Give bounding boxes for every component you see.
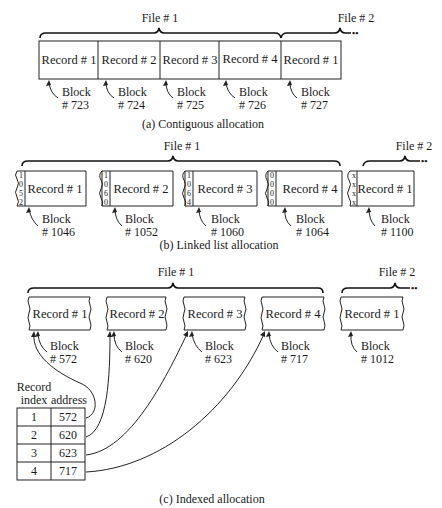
table-cell-address: 623 (59, 446, 77, 460)
pointer-digit: 0 (104, 198, 108, 207)
block-number: # 1012 (361, 352, 394, 366)
record-label: Record # 1 (33, 307, 88, 321)
record-label: Record # 2 (114, 182, 169, 196)
table-cell-index: 1 (31, 410, 37, 424)
pointer-digit: 0 (270, 171, 274, 180)
record-label: Record # 2 (102, 53, 157, 67)
block-word: Block (239, 85, 268, 99)
record-label: Record # 1 (42, 53, 97, 67)
indexed-block: Record # 1 (340, 297, 404, 330)
table-cell-index: 4 (31, 464, 37, 478)
indexed-block: Record # 3 (183, 297, 246, 330)
linked-block: 0 0 0 0 Record # 4 (266, 171, 343, 207)
file1-label: File # 1 (164, 139, 201, 153)
pointer-digit: 0 (270, 198, 274, 207)
record-label: Record # 4 (266, 307, 322, 321)
section-linked-list: File # 1 File # 2 •• 1 0 5 2 Record # 1 … (16, 139, 433, 252)
caption-linked-list: (b) Linked list allocation (160, 238, 279, 252)
indexed-block: Record # 2 (106, 297, 167, 330)
linked-block: 1 0 6 4 Record # 3 (183, 171, 258, 207)
pointer-digit: 6 (187, 189, 191, 198)
pointer-null-mark: x (352, 180, 356, 189)
block-number: # 1100 (381, 225, 414, 239)
table-cell-index: 3 (31, 446, 37, 460)
file2-label: File # 2 (379, 265, 416, 279)
pointer-digit: 0 (104, 180, 108, 189)
pointer-digit: 1 (187, 171, 191, 180)
block-word: Block (125, 339, 154, 353)
file1-label: File # 1 (142, 11, 179, 25)
block-word: Block (50, 339, 79, 353)
pointer-null-mark: x (352, 189, 356, 198)
block-number: # 620 (125, 352, 152, 366)
section-contiguous: File # 1 File # 2 •• Record # 1 Record #… (39, 11, 374, 131)
block-word: Block (118, 85, 147, 99)
record-label: Record # 3 (198, 182, 253, 196)
file2-brace (281, 28, 351, 38)
table-header-address: address (51, 393, 87, 407)
record-label: Record # 3 (163, 53, 218, 67)
block-number: # 724 (118, 98, 145, 112)
block-number: # 1064 (296, 225, 329, 239)
section-indexed: File # 1 File # 2 •• Record # 1 Record #… (17, 265, 418, 506)
block-number: # 723 (62, 98, 89, 112)
continuation-dots: •• (421, 156, 427, 166)
indexed-block: Record # 1 (28, 297, 91, 330)
caption-indexed: (c) Indexed allocation (159, 492, 264, 506)
pointer-digit: 0 (187, 180, 191, 189)
block-word: Block (361, 339, 390, 353)
file2-label: File # 2 (396, 139, 433, 153)
pointer-digit: 1 (19, 171, 23, 180)
pointer-digit: 6 (104, 189, 108, 198)
linked-block: 1 0 5 2 Record # 1 (16, 171, 87, 207)
pointer-digit: 0 (270, 180, 274, 189)
file2-brace (363, 156, 420, 166)
block-word: Block (301, 85, 330, 99)
block-word: Block (296, 212, 325, 226)
block-word: Block (177, 85, 206, 99)
pointer-digit: 4 (187, 198, 191, 207)
continuation-dots: •• (352, 28, 358, 38)
block-number: # 1052 (125, 225, 158, 239)
record-label: Record # 4 (223, 52, 279, 66)
block-number: # 623 (205, 352, 232, 366)
block-word: Block (125, 212, 154, 226)
pointer-digit: 0 (270, 189, 274, 198)
file2-brace (342, 283, 410, 293)
block-word: Block (381, 212, 410, 226)
indexed-block: Record # 4 (261, 297, 325, 330)
record-label: Record # 1 (284, 53, 339, 67)
index-table: Record index address 1 572 2 620 3 623 4… (17, 380, 88, 480)
table-cell-address: 717 (59, 464, 77, 478)
file1-brace (22, 156, 340, 166)
pointer-digit: 0 (19, 180, 23, 189)
linked-block: x x x x Record # 1 (348, 171, 415, 207)
table-cell-address: 572 (59, 410, 77, 424)
block-word: Block (211, 212, 240, 226)
table-cell-address: 620 (59, 428, 77, 442)
pointer-digit: 1 (104, 171, 108, 180)
pointer-null-mark: x (352, 171, 356, 180)
block-word: Block (205, 339, 234, 353)
record-label: Record # 4 (283, 182, 339, 196)
record-label: Record # 1 (358, 182, 413, 196)
record-label: Record # 3 (188, 307, 243, 321)
block-number: # 1060 (211, 225, 244, 239)
file1-brace (28, 283, 323, 293)
table-header-index: index (21, 393, 48, 407)
pointer-null-mark: x (352, 198, 356, 207)
block-number: # 726 (239, 98, 266, 112)
block-word: Block (62, 85, 91, 99)
file2-label: File # 2 (338, 11, 375, 25)
record-label: Record # 1 (28, 182, 83, 196)
block-number: # 572 (50, 352, 77, 366)
block-number: # 717 (281, 352, 308, 366)
continuation-dots: •• (411, 283, 417, 293)
linked-block: 1 0 6 0 Record # 2 (100, 171, 174, 207)
table-cell-index: 2 (31, 428, 37, 442)
block-number: # 1046 (42, 225, 75, 239)
block-number: # 725 (177, 98, 204, 112)
file1-label: File # 1 (158, 265, 195, 279)
pointer-digit: 2 (19, 198, 23, 207)
block-word: Block (281, 339, 310, 353)
